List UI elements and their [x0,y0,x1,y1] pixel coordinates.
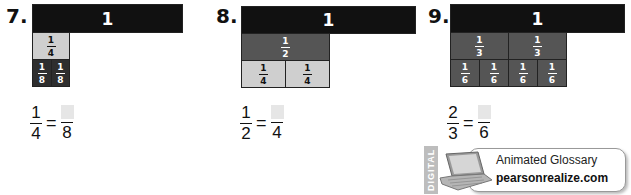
fraction-tile: 16 [450,59,480,87]
equation: 12 = 4 [240,104,284,143]
numerator: 2 [448,104,457,122]
fraction-tile: 18 [51,59,70,87]
tile-numerator: 1 [476,35,482,45]
tile-numerator: 1 [491,62,497,72]
fraction-tile: 14 [32,32,70,60]
equation: 14 = 8 [30,104,74,143]
tile-numerator: 1 [534,35,540,45]
fraction-tile: 13 [508,32,567,60]
denominator: 3 [448,125,457,143]
fraction-tile: 12 [241,33,330,61]
tile-numerator: 1 [304,63,310,73]
tile-denominator: 6 [462,75,468,85]
problem-number: 8. [216,4,238,28]
numerator: 1 [31,104,40,122]
tile-numerator: 1 [39,62,45,72]
fraction-tile: 13 [450,32,509,60]
tile-denominator: 3 [534,48,540,58]
denominator: 4 [272,124,281,142]
answer-box[interactable] [61,105,74,119]
fraction-tile: 14 [285,60,330,88]
tile-denominator: 4 [260,76,266,86]
tile-denominator: 6 [549,75,555,85]
fraction-tile: 16 [537,59,567,87]
whole-bar: 1 [32,4,183,33]
fraction-tile: 14 [241,60,286,88]
tile-denominator: 4 [48,48,54,58]
tile-numerator: 1 [520,62,526,72]
tile-numerator: 1 [462,62,468,72]
answer-box[interactable] [271,105,284,119]
denominator: 8 [62,124,71,142]
tile-numerator: 1 [282,36,288,46]
badge-link[interactable]: pearsonrealize.com [496,171,608,185]
laptop-icon [438,150,494,192]
tile-denominator: 6 [491,75,497,85]
tile-denominator: 3 [476,48,482,58]
tile-denominator: 4 [304,76,310,86]
fraction-tile: 18 [32,59,52,87]
fraction-tile: 16 [479,59,509,87]
tile-denominator: 6 [520,75,526,85]
equals-sign: = [46,113,57,134]
problem-number: 7. [6,4,28,28]
equals-sign: = [463,113,474,134]
tile-numerator: 1 [48,35,54,45]
fraction-tile: 16 [508,59,538,87]
tile-denominator: 8 [39,75,45,85]
denominator: 4 [31,125,40,143]
equals-sign: = [256,113,267,134]
digital-badge-side: DIGITAL [424,146,494,194]
numerator: 1 [241,104,250,122]
tile-denominator: 8 [57,75,63,85]
digital-label: DIGITAL [424,146,438,194]
denominator: 2 [241,125,250,143]
answer-box[interactable] [478,105,491,119]
problem-number: 9. [428,4,450,28]
whole-bar: 1 [450,4,625,33]
denominator: 6 [479,124,488,142]
whole-bar: 1 [241,6,416,34]
tile-numerator: 1 [260,63,266,73]
tile-numerator: 1 [57,62,63,72]
badge-title: Animated Glossary [496,153,597,167]
tile-numerator: 1 [549,62,555,72]
tile-denominator: 2 [282,49,288,59]
equation: 23 = 6 [447,104,491,143]
